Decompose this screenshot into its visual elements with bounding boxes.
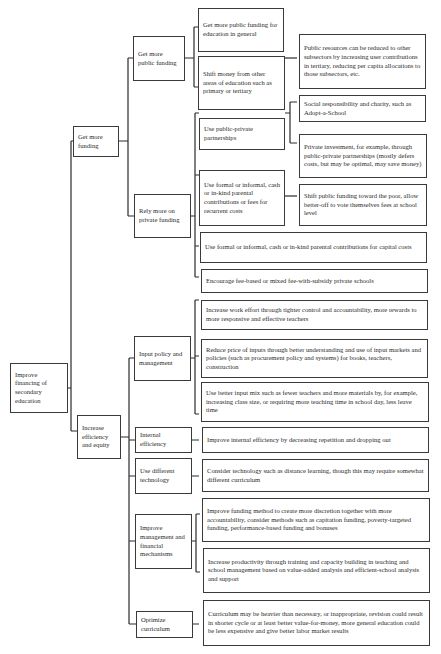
node-label: Use different technology [140,467,187,484]
node-label: Rely more on private funding [139,207,186,224]
node-optimize-curriculum: Optimize curriculum [136,611,193,638]
node-label: Improve management and financial mechani… [140,524,187,558]
node-private-investment: Private investment, for example, through… [299,134,427,178]
node-label: Improve internal efficiency by decreasin… [207,436,391,445]
node-consider-technology: Consider technology such as distance lea… [202,459,429,492]
node-label: Curriculum may be heavier than necessary… [208,610,425,636]
node-shift-public-funding: Shift public funding toward the poor, al… [299,184,427,226]
node-improve-internal-efficiency: Improve internal efficiency by decreasin… [202,427,429,453]
node-label: Consider technology such as distance lea… [207,467,424,484]
node-label: Improve financing of secondary education [15,371,63,405]
node-get-more-public-funding: Get more public funding [133,36,185,81]
node-reduce-input-price: Reduce price of inputs through better un… [201,339,428,378]
node-increase-productivity: Increase productivity through training a… [203,548,430,593]
node-capital-costs: Use formal or informal, cash or in-kind … [200,232,427,263]
node-root: Improve financing of secondary education [10,363,68,413]
node-label: Get more public funding for education in… [203,21,279,38]
node-label: Reduce price of inputs through better un… [206,346,423,372]
node-label: Use formal or informal, cash or in-kind … [205,243,412,252]
node-internal-efficiency: Internal efficiency [135,427,192,453]
node-label: Get more funding [78,133,114,150]
node-rely-on-private-funding: Rely more on private funding [134,194,191,238]
node-label: Encourage fee-based or mixed fee-with-su… [206,277,374,286]
node-curriculum: Curriculum may be heavier than necessary… [203,600,430,646]
node-label: Use formal or informal, cash or in-kind … [204,181,280,215]
node-increase-efficiency: Increase efficiency and equity [77,415,121,459]
node-label: Get more public funding [138,50,180,67]
node-recurrent-costs: Use formal or informal, cash or in-kind … [199,170,285,226]
node-public-funding-general: Get more public funding for education in… [198,8,284,52]
node-social-responsibility: Social responsibility and charity, such … [299,95,426,122]
node-public-private-partnerships: Use public-private partnerships [199,118,285,150]
node-label: Input policy and management [139,350,186,367]
node-label: Private investment, for example, through… [304,143,422,169]
node-label: Improve funding method to create more di… [207,507,425,533]
node-get-more-funding: Get more funding [73,126,119,157]
node-private-schools: Encourage fee-based or mixed fee-with-su… [201,269,428,293]
node-label: Public resources can be reduced to other… [304,44,421,78]
node-label: Increase efficiency and equity [82,424,116,450]
node-work-effort: Increase work effort through tighter con… [201,300,428,330]
node-label: Internal efficiency [140,431,187,448]
node-improve-funding-method: Improve funding method to create more di… [202,498,430,542]
node-label: Use public-private partnerships [204,125,280,142]
node-label: Increase productivity through training a… [208,558,425,584]
node-different-technology: Use different technology [135,458,192,494]
node-label: Shift money from other areas of educatio… [203,70,280,96]
node-label: Use better input mix such as fewer teach… [206,389,424,415]
node-label: Optimize curriculum [141,616,188,633]
node-label: Increase work effort through tighter con… [206,306,423,323]
node-better-input-mix: Use better input mix such as fewer teach… [201,382,429,422]
node-public-resources-reduced: Public resources can be reduced to other… [299,34,426,89]
node-input-policy: Input policy and management [134,336,191,381]
node-shift-money: Shift money from other areas of educatio… [198,56,285,110]
node-improve-management: Improve management and financial mechani… [135,514,192,569]
node-label: Social responsibility and charity, such … [304,100,421,117]
node-label: Shift public funding toward the poor, al… [304,192,422,218]
